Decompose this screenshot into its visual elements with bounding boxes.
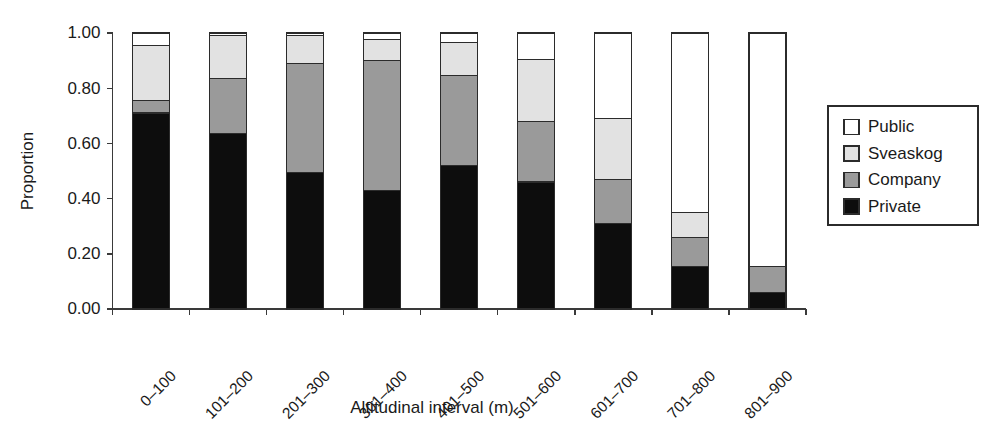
legend-label-public: Public <box>868 117 915 136</box>
bar-stack <box>287 33 324 309</box>
legend-swatch-company[interactable] <box>844 173 859 188</box>
legend-swatch-private[interactable] <box>844 199 859 214</box>
bar-segment-public <box>133 33 170 45</box>
bar-segment-private <box>672 266 709 309</box>
bar-segment-private <box>133 113 170 309</box>
bar-segment-private <box>518 182 555 309</box>
y-tick-label: 0.40 <box>67 189 100 208</box>
bar-segment-sveaskog <box>210 36 247 79</box>
bar-stack <box>441 33 478 309</box>
bar-segment-company <box>749 266 786 292</box>
legend-label-private: Private <box>868 197 921 216</box>
y-axis: 0.000.200.400.600.801.00 <box>67 23 112 318</box>
bar-segment-public <box>595 33 632 119</box>
bar-segment-sveaskog <box>518 59 555 121</box>
bar-segment-sveaskog <box>672 212 709 237</box>
legend-label-sveaskog: Sveaskog <box>868 144 943 163</box>
bar-segment-private <box>210 134 247 309</box>
bar-series-group <box>133 33 786 309</box>
bar-segment-sveaskog <box>441 43 478 76</box>
bar-stack <box>518 33 555 309</box>
x-tick-label: 201–300 <box>279 367 334 422</box>
chart-container: 0.000.200.400.600.801.00 0–100101–200201… <box>0 0 990 436</box>
y-tick-label: 0.20 <box>67 244 100 263</box>
x-axis <box>113 309 807 315</box>
bar-stack <box>133 33 170 309</box>
bar-segment-private <box>595 223 632 309</box>
bar-segment-company <box>441 76 478 166</box>
bar-segment-public <box>210 33 247 36</box>
chart-legend: PublicSveaskogCompanyPrivate <box>828 106 978 225</box>
bar-segment-public <box>287 33 324 36</box>
bar-segment-private <box>287 172 324 309</box>
bar-segment-company <box>133 101 170 113</box>
y-tick-label: 0.80 <box>67 79 100 98</box>
bar-stack <box>749 33 786 309</box>
x-tick-label: 801–900 <box>741 367 796 422</box>
bar-segment-company <box>595 179 632 223</box>
bar-segment-company <box>287 63 324 172</box>
y-axis-title: Proportion <box>18 132 37 210</box>
bar-segment-company <box>210 79 247 134</box>
bar-stack <box>210 33 247 309</box>
legend-swatch-public[interactable] <box>844 120 859 135</box>
bar-segment-company <box>364 61 401 191</box>
x-tick-label: 501–600 <box>510 367 565 422</box>
stacked-bar-chart: 0.000.200.400.600.801.00 0–100101–200201… <box>0 0 990 436</box>
bar-segment-private <box>364 190 401 309</box>
y-tick-label: 1.00 <box>67 23 100 42</box>
bar-segment-sveaskog <box>364 40 401 61</box>
bar-segment-private <box>441 165 478 309</box>
bar-segment-sveaskog <box>595 119 632 180</box>
x-axis-title: Altitudinal interval (m) <box>350 398 513 417</box>
bar-segment-public <box>672 33 709 212</box>
legend-label-company: Company <box>868 170 941 189</box>
bar-segment-public <box>441 33 478 43</box>
bar-stack <box>672 33 709 309</box>
bar-stack <box>364 33 401 309</box>
bar-segment-sveaskog <box>133 45 170 100</box>
y-tick-label: 0.60 <box>67 134 100 153</box>
x-tick-label: 0–100 <box>137 367 180 410</box>
x-tick-label: 601–700 <box>587 367 642 422</box>
bar-segment-public <box>364 33 401 40</box>
bar-segment-sveaskog <box>287 36 324 64</box>
bar-segment-company <box>672 237 709 266</box>
x-tick-label: 701–800 <box>664 367 719 422</box>
bar-stack <box>595 33 632 309</box>
legend-swatch-sveaskog[interactable] <box>844 146 859 161</box>
bar-segment-public <box>749 33 786 266</box>
bar-segment-company <box>518 121 555 182</box>
x-tick-label: 101–200 <box>202 367 257 422</box>
y-tick-label: 0.00 <box>67 299 100 318</box>
bar-segment-private <box>749 292 786 309</box>
bar-segment-public <box>518 33 555 59</box>
